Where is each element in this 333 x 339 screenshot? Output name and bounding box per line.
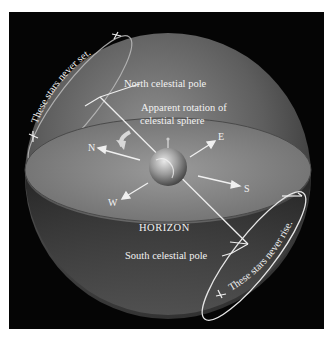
direction-south-label: S — [244, 183, 250, 194]
direction-north-label: N — [88, 142, 95, 153]
direction-west-label: W — [108, 197, 118, 208]
rotation-label-line2: celestial sphere — [140, 115, 205, 126]
direction-east-label: E — [218, 131, 224, 142]
north-celestial-pole-label: North celestial pole — [124, 78, 207, 89]
rotation-label-line1: Apparent rotation of — [141, 102, 227, 113]
horizon-label: HORIZON — [139, 222, 190, 233]
celestial-sphere-diagram: These stars never set. These stars never… — [0, 0, 333, 339]
south-celestial-pole-label: South celestial pole — [125, 250, 208, 261]
